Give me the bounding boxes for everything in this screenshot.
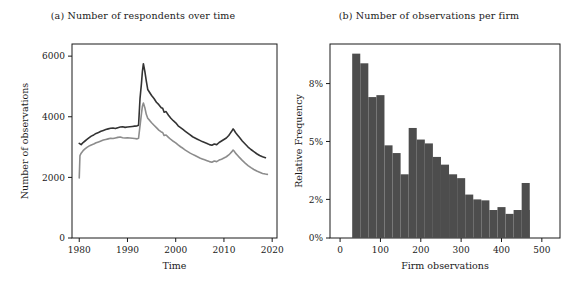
histogram-bar <box>368 97 376 238</box>
x-tick-label-b: 500 <box>533 245 550 255</box>
histogram-bar <box>514 210 522 238</box>
histogram-chart-b: 0%2%5%8%0100200300400500Firm observation… <box>286 0 572 304</box>
y-tick-label-b: 0% <box>309 233 324 243</box>
y-tick-label-b: 8% <box>309 79 324 89</box>
histogram-bar <box>457 178 465 238</box>
x-tick-label-b: 0 <box>337 245 343 255</box>
y-tick-label-a: 4000 <box>42 112 65 122</box>
panel-respondents-over-time: (a) Number of respondents over time 0200… <box>0 0 286 304</box>
x-tick-label-a: 2010 <box>212 245 235 255</box>
histogram-bar <box>409 128 417 238</box>
histogram-bar <box>449 174 457 238</box>
histogram-bar <box>393 153 401 238</box>
histogram-bar <box>441 165 449 238</box>
y-tick-label-a: 6000 <box>42 51 65 61</box>
x-tick-label-b: 400 <box>493 245 510 255</box>
histogram-bar <box>465 195 473 238</box>
series-line-dark <box>79 64 265 158</box>
y-tick-label-a: 2000 <box>42 173 65 183</box>
histogram-bar <box>481 200 489 238</box>
x-tick-label-a: 2000 <box>164 245 187 255</box>
histogram-bar <box>401 174 409 238</box>
x-axis-label-a: Time <box>162 260 186 271</box>
histogram-bar <box>506 214 514 238</box>
histogram-bar <box>417 140 425 238</box>
line-chart-a: 020004000600019801990200020102020TimeNum… <box>0 0 286 304</box>
histogram-bar <box>497 207 505 238</box>
x-tick-label-b: 100 <box>372 245 389 255</box>
y-axis-label-a: Number of observations <box>19 83 30 200</box>
histogram-bar <box>384 145 392 238</box>
y-tick-label-b: 2% <box>309 195 324 205</box>
histogram-bar <box>433 157 441 238</box>
y-tick-label-b: 5% <box>309 137 324 147</box>
x-tick-label-b: 300 <box>453 245 470 255</box>
panel-observations-per-firm: (b) Number of observations per firm 0%2%… <box>286 0 572 304</box>
figure-root: (a) Number of respondents over time 0200… <box>0 0 572 304</box>
histogram-bar <box>522 183 530 238</box>
histogram-bar <box>425 143 433 238</box>
histogram-bar <box>376 95 384 238</box>
y-axis-label-b: Relative Frequency <box>293 94 304 188</box>
y-tick-label-a: 0 <box>59 233 65 243</box>
series-line-gray <box>79 103 267 178</box>
histogram-bar <box>473 199 481 238</box>
histogram-bar <box>360 63 368 238</box>
histogram-bar <box>489 210 497 238</box>
x-tick-label-b: 200 <box>412 245 429 255</box>
histogram-bar <box>352 54 360 238</box>
x-axis-label-b: Firm observations <box>401 260 489 271</box>
x-tick-label-a: 2020 <box>261 245 284 255</box>
x-tick-label-a: 1980 <box>68 245 91 255</box>
x-tick-label-a: 1990 <box>116 245 139 255</box>
